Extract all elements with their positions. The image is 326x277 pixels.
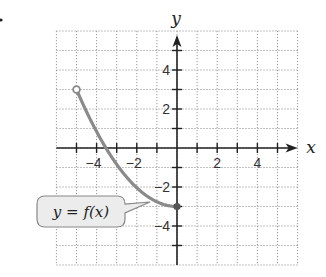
x-axis-label: x — [306, 137, 316, 157]
y-tick-label: −2 — [154, 179, 170, 195]
x-tick-label: 4 — [254, 155, 262, 171]
y-tick-label: 2 — [162, 101, 170, 117]
open-endpoint-icon — [73, 86, 80, 93]
x-tick-label: −2 — [126, 155, 142, 171]
function-callout: y = f(x) — [37, 196, 150, 227]
x-tick-label: −4 — [86, 155, 102, 171]
problem-marker — [0, 18, 3, 21]
y-tick-label: −4 — [154, 218, 170, 234]
y-axis-label: y — [170, 8, 181, 28]
closed-endpoint-icon — [173, 203, 180, 210]
y-tick-label: 4 — [162, 62, 170, 78]
function-label: y = f(x) — [52, 203, 109, 221]
function-graph: xy −4−22442−2−4 y = f(x) — [0, 0, 326, 277]
x-tick-label: 2 — [213, 155, 221, 171]
